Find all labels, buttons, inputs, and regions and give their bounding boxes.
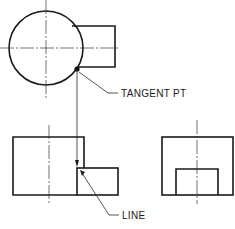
- front-view-main-block: [13, 137, 84, 195]
- front-view: [13, 125, 118, 205]
- projection-arrowhead-icon: [75, 160, 79, 167]
- tangent-leader-line: [79, 72, 118, 93]
- drawing-canvas: TANGENT PT LINE: [0, 0, 235, 229]
- top-view-rect: [72, 26, 115, 67]
- side-view-outer-block: [162, 137, 233, 195]
- line-leader-line: [82, 173, 119, 215]
- line-leader-arrowhead-icon: [80, 170, 85, 176]
- tangent-point-label: TANGENT PT: [121, 88, 186, 99]
- line-label: LINE: [122, 210, 145, 221]
- side-view: [162, 120, 233, 204]
- top-view: [0, 0, 118, 100]
